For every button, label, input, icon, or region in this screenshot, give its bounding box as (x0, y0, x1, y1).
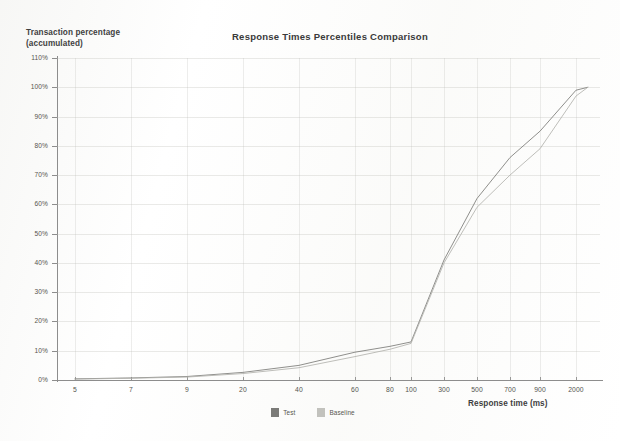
legend-swatch-icon (271, 408, 279, 417)
x-tick-label: 7 (111, 386, 151, 393)
x-axis-title: Response time (ms) (468, 399, 548, 408)
legend-item[interactable]: Baseline (317, 408, 354, 417)
y-tick-label: 110% (16, 54, 48, 61)
x-axis-line (57, 380, 603, 381)
series-line-baseline (75, 87, 588, 379)
x-tick-label: 2000 (556, 386, 596, 393)
y-tick-label: 90% (16, 113, 48, 120)
x-tick-label: 9 (167, 386, 207, 393)
legend-label: Test (283, 409, 295, 416)
y-tick-label: 20% (16, 317, 48, 324)
y-tick-label: 30% (16, 288, 48, 295)
series-line-test (75, 87, 588, 379)
plot-area (57, 58, 600, 380)
y-tick-label: 100% (16, 83, 48, 90)
legend-item[interactable]: Test (271, 408, 295, 417)
y-tick-label: 50% (16, 230, 48, 237)
y-tick-label: 60% (16, 200, 48, 207)
y-tick-label: 10% (16, 347, 48, 354)
legend-label: Baseline (329, 409, 354, 416)
x-tick-label: 60 (335, 386, 375, 393)
y-tick-label: 0% (16, 376, 48, 383)
y-tick-label: 40% (16, 259, 48, 266)
response-times-percentiles-chart: Response Times Percentiles Comparison Tr… (0, 0, 620, 441)
x-tick-label: 40 (279, 386, 319, 393)
y-tick-label: 70% (16, 171, 48, 178)
x-tick-label: 20 (223, 386, 263, 393)
y-tick-mark (52, 380, 57, 381)
series-lines (57, 58, 600, 380)
x-tick-label: 5 (55, 386, 95, 393)
x-tick-label: 900 (520, 386, 560, 393)
y-axis-title: Transaction percentage (accumulated) (26, 28, 120, 49)
legend: TestBaseline (0, 408, 620, 417)
legend-swatch-icon (317, 408, 325, 417)
y-tick-label: 80% (16, 142, 48, 149)
